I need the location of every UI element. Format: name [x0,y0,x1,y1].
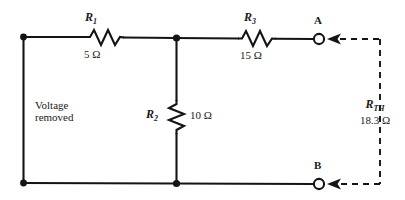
resistor-r2-symbol [169,100,184,134]
terminal-b-circle [314,179,324,189]
resistor-r1-symbol [86,30,124,45]
wire-junction-to-r3 [176,38,238,39]
resistor-r3-label: R3 [244,11,256,27]
wire-bottom-right-segment [176,184,313,185]
arrowhead-terminal-b [327,179,341,190]
thevenin-resistance-name: RTH [347,98,403,114]
resistor-r3-value: 15 Ω [240,49,262,61]
resistor-r1-value: 5 Ω [84,48,100,60]
wire-bottom-left-segment [23,183,176,184]
terminal-a-circle [314,34,324,44]
thevenin-resistance-label: RTH 18.3 Ω [347,98,403,127]
resistor-r3-symbol [238,31,276,46]
terminal-a-label: A [314,14,322,26]
arrowhead-terminal-a [327,34,341,45]
resistor-r1-label: R1 [85,11,97,27]
resistor-r2-label: R2 [146,108,158,124]
wire-r1-to-junction [124,38,176,39]
voltage-removed-line2: removed [35,111,73,123]
voltage-removed-note: Voltage removed [35,99,73,124]
node-dot-center-top [173,34,180,41]
resistor-r2-value: 10 Ω [190,109,212,121]
node-dot-center-bottom [173,180,180,187]
thevenin-resistance-value: 18.3 Ω [347,114,403,126]
terminal-b-label: B [314,159,321,171]
node-dot-top-left [20,34,27,41]
voltage-removed-line1: Voltage [35,99,73,111]
node-dot-bottom-left [20,180,27,187]
